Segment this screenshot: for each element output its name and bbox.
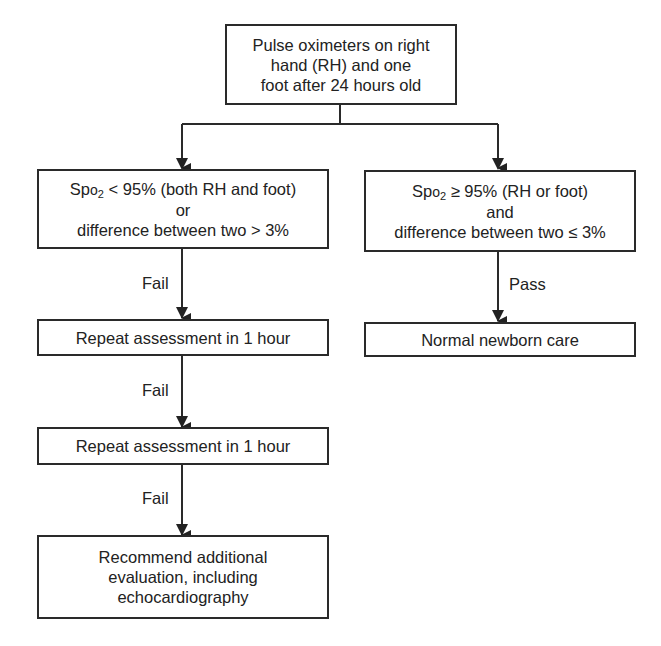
pass-criteria-line-2: and [486, 202, 514, 222]
fail-criteria-line-3: difference between two > 3% [77, 220, 289, 240]
start-line-1: Pulse oximeters on right [253, 35, 430, 55]
fail-criteria-node: Spo2 < 95% (both RH and foot) or differe… [37, 169, 329, 249]
pass-criteria-node: Spo2 ≥ 95% (RH or foot) and difference b… [364, 170, 636, 252]
repeat-assessment-2-node: Repeat assessment in 1 hour [37, 427, 329, 465]
spo2-o: o [432, 184, 440, 200]
fail-criteria-line-2: or [176, 200, 191, 220]
recommend-line-3: echocardiography [117, 587, 248, 607]
pass-criteria-threshold: ≥ 95% (RH or foot) [446, 182, 588, 200]
spo2-label: Sp [412, 182, 432, 200]
repeat-assessment-1-node: Repeat assessment in 1 hour [37, 319, 329, 356]
recommend-line-1: Recommend additional [99, 547, 268, 567]
fail-criteria-threshold: < 95% (both RH and foot) [104, 180, 296, 198]
arrowhead-icon [492, 158, 504, 170]
arrowhead-icon [176, 307, 188, 319]
start-node: Pulse oximeters on right hand (RH) and o… [225, 24, 457, 105]
edge-label-fail-2: Fail [142, 380, 169, 400]
recommend-evaluation-node: Recommend additional evaluation, includi… [37, 535, 329, 619]
pass-criteria-line-3: difference between two ≤ 3% [394, 222, 605, 242]
spo2-o: o [90, 182, 98, 198]
edge-label-fail-3: Fail [142, 488, 169, 508]
normal-newborn-care-text: Normal newborn care [421, 330, 579, 350]
pass-criteria-line-1: Spo2 ≥ 95% (RH or foot) [412, 181, 588, 202]
start-line-3: foot after 24 hours old [261, 75, 422, 95]
arrowhead-icon [492, 310, 504, 322]
normal-newborn-care-node: Normal newborn care [364, 322, 636, 357]
repeat-assessment-1-text: Repeat assessment in 1 hour [76, 328, 291, 348]
edge-label-pass: Pass [509, 274, 546, 294]
repeat-assessment-2-text: Repeat assessment in 1 hour [76, 436, 291, 456]
spo2-label: Sp [70, 180, 90, 198]
fail-criteria-line-1: Spo2 < 95% (both RH and foot) [70, 179, 296, 200]
start-line-2: hand (RH) and one [271, 55, 411, 75]
recommend-line-2: evaluation, including [108, 567, 258, 587]
edge-label-fail-1: Fail [142, 273, 169, 293]
